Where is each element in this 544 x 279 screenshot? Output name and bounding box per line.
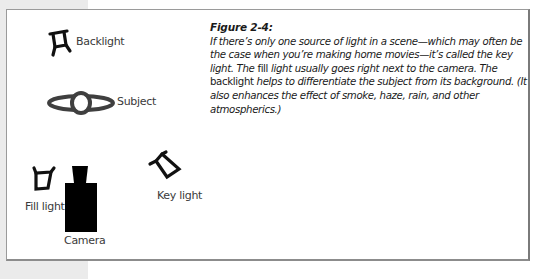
caption-term-backlight: backlight [210,76,254,87]
caption-segment: helps to differentiate the subject from … [210,76,527,114]
figure-caption: Figure 2-4: If there’s only one source o… [210,21,530,116]
figure-title: Figure 2-4: [210,21,530,35]
camera-label: Camera [64,234,105,247]
backlight-label: Backlight [76,35,124,48]
key-light-icon [149,151,183,185]
key-light-label: Key light [157,189,202,202]
subject-icon [45,90,117,116]
backlight-icon [46,28,76,58]
fill-light-label: Fill light [25,200,65,213]
camera-icon [64,165,98,233]
fill-light-icon [31,166,57,196]
figure-caption-text: If there’s only one source of light in a… [210,35,530,117]
subject-label: Subject [117,95,156,108]
caption-segment: light usually goes right next to the cam… [268,63,497,74]
caption-term-fill: fill [257,63,268,74]
